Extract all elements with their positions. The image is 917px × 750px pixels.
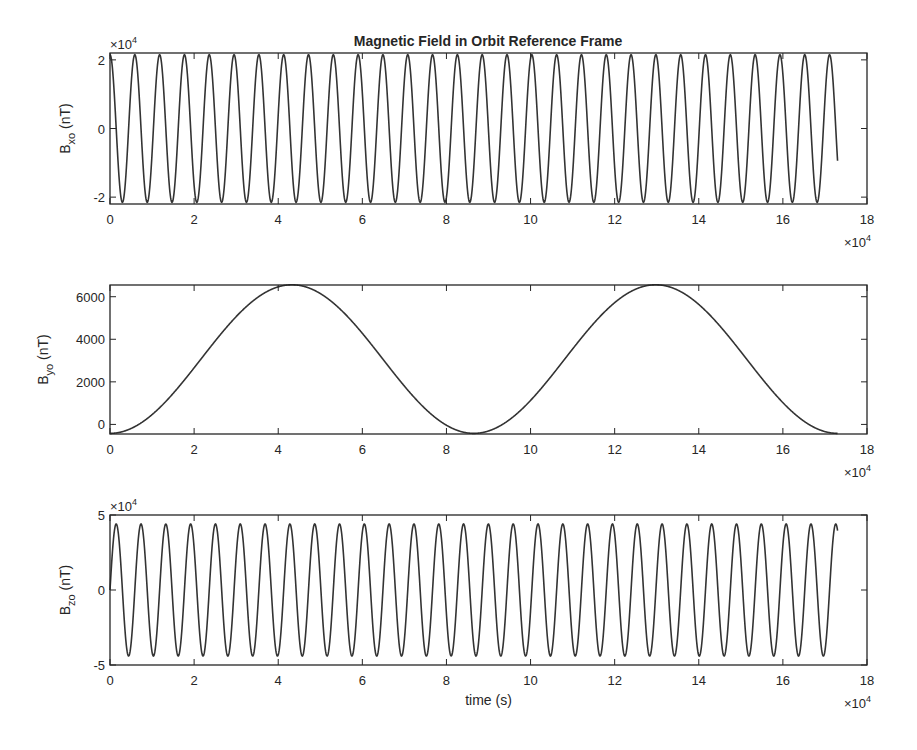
x-exponent-label: ×104 (844, 694, 871, 711)
x-tick-label: 4 (275, 673, 282, 688)
y-tick-label: -2 (93, 190, 105, 205)
x-axis-label: time (s) (465, 692, 512, 708)
axes-bzo: 024681012141618×10450-5×104Bzo (nT)time … (57, 497, 874, 711)
y-tick-label: 6000 (76, 290, 105, 305)
y-axis-label: Byo (nT) (35, 334, 55, 385)
axes-bxo: 024681012141618×10420-2×104Bxo (nT) (57, 35, 874, 250)
x-tick-label: 16 (776, 673, 790, 688)
y-tick-label: 2 (98, 53, 105, 68)
y-tick-label: -5 (93, 658, 105, 673)
x-tick-label: 18 (860, 673, 874, 688)
x-tick-label: 8 (443, 442, 450, 457)
x-tick-label: 4 (275, 442, 282, 457)
x-tick-label: 14 (692, 212, 706, 227)
x-exponent-label: ×104 (844, 233, 871, 250)
series-line-bzo (110, 524, 838, 656)
x-tick-label: 18 (860, 442, 874, 457)
x-tick-label: 18 (860, 212, 874, 227)
x-tick-label: 0 (106, 673, 113, 688)
x-tick-label: 8 (443, 673, 450, 688)
y-tick-label: 0 (98, 583, 105, 598)
y-axis-label: Bzo (nT) (57, 565, 77, 616)
x-exponent-label: ×104 (844, 463, 871, 480)
x-tick-label: 10 (523, 442, 537, 457)
x-tick-label: 12 (607, 212, 621, 227)
x-tick-label: 8 (443, 212, 450, 227)
y-exponent-label: ×104 (110, 497, 137, 514)
y-tick-label: 5 (98, 508, 105, 523)
x-tick-label: 12 (607, 442, 621, 457)
axes-box (110, 515, 867, 665)
figure-title: Magnetic Field in Orbit Reference Frame (354, 33, 623, 49)
x-tick-label: 0 (106, 212, 113, 227)
x-tick-label: 16 (776, 442, 790, 457)
series-line-bxo (110, 55, 838, 203)
x-tick-label: 14 (692, 673, 706, 688)
axes-box (110, 285, 867, 434)
y-tick-label: 0 (98, 122, 105, 137)
x-tick-label: 6 (359, 673, 366, 688)
x-tick-label: 2 (190, 442, 197, 457)
x-tick-label: 2 (190, 673, 197, 688)
x-tick-label: 10 (523, 212, 537, 227)
y-exponent-label: ×104 (110, 35, 137, 52)
x-tick-label: 12 (607, 673, 621, 688)
x-tick-label: 6 (359, 212, 366, 227)
figure: Magnetic Field in Orbit Reference Frame … (0, 0, 917, 750)
y-tick-label: 4000 (76, 332, 105, 347)
x-tick-label: 10 (523, 673, 537, 688)
x-tick-label: 0 (106, 442, 113, 457)
y-tick-label: 0 (98, 417, 105, 432)
y-axis-label: Bxo (nT) (57, 103, 77, 154)
x-tick-label: 16 (776, 212, 790, 227)
x-tick-label: 2 (190, 212, 197, 227)
x-tick-label: 14 (692, 442, 706, 457)
x-tick-label: 4 (275, 212, 282, 227)
y-tick-label: 2000 (76, 375, 105, 390)
series-line-byo (110, 285, 838, 434)
x-tick-label: 6 (359, 442, 366, 457)
axes-byo: 024681012141618×1046000400020000Byo (nT) (35, 285, 874, 480)
